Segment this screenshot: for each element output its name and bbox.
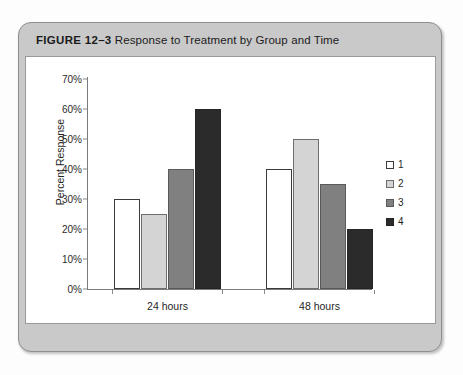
y-axis-tick-label: 0% — [68, 284, 82, 295]
x-axis-tick-mark — [374, 290, 375, 294]
figure-title: Response to Treatment by Group and Time — [115, 34, 339, 46]
y-axis-tick-mark — [83, 169, 87, 170]
y-axis-tick-label: 70% — [62, 74, 82, 85]
x-axis-tick-mark — [264, 290, 265, 294]
legend-label: 3 — [398, 197, 404, 208]
bar[interactable] — [320, 184, 346, 289]
bar[interactable] — [141, 214, 167, 289]
x-axis-tick-mark — [222, 290, 223, 294]
y-axis-tick-mark — [83, 109, 87, 110]
legend-swatch-icon — [386, 180, 394, 188]
y-axis-tick-mark — [83, 259, 87, 260]
figure-card: FIGURE 12–3 Response to Treatment by Gro… — [18, 22, 442, 352]
bar[interactable] — [114, 199, 140, 289]
y-axis-tick-mark — [83, 199, 87, 200]
chart-panel: 0%10%20%30%40%50%60%70% Percent Response… — [25, 56, 436, 324]
x-axis-category-label: 48 hours — [299, 300, 340, 312]
y-axis-tick-mark — [83, 289, 87, 290]
legend-label: 4 — [398, 216, 404, 227]
chart-legend: 1234 — [386, 155, 430, 231]
y-axis-tick-mark — [83, 229, 87, 230]
plot-area — [88, 79, 366, 289]
legend-swatch-icon — [386, 199, 394, 207]
y-axis-tick-mark — [83, 79, 87, 80]
y-axis-tick-mark — [83, 139, 87, 140]
x-axis-tick-mark — [112, 290, 113, 294]
figure-number: FIGURE 12–3 — [36, 34, 112, 46]
bar-group — [266, 79, 382, 289]
bar-group — [114, 79, 230, 289]
legend-swatch-icon — [386, 161, 394, 169]
legend-item[interactable]: 3 — [386, 193, 430, 212]
bar[interactable] — [266, 169, 292, 289]
legend-label: 1 — [398, 159, 404, 170]
y-axis-title: Percent Response — [54, 92, 66, 232]
bar[interactable] — [347, 229, 373, 289]
legend-item[interactable]: 1 — [386, 155, 430, 174]
bar[interactable] — [168, 169, 194, 289]
legend-swatch-icon — [386, 218, 394, 226]
figure-caption: FIGURE 12–3 Response to Treatment by Gro… — [36, 34, 339, 46]
bar[interactable] — [195, 109, 221, 289]
legend-label: 2 — [398, 178, 404, 189]
legend-item[interactable]: 2 — [386, 174, 430, 193]
x-axis-line — [87, 289, 372, 290]
legend-item[interactable]: 4 — [386, 212, 430, 231]
bar[interactable] — [293, 139, 319, 289]
x-axis-category-label: 24 hours — [147, 300, 188, 312]
y-axis-tick-label: 10% — [62, 254, 82, 265]
